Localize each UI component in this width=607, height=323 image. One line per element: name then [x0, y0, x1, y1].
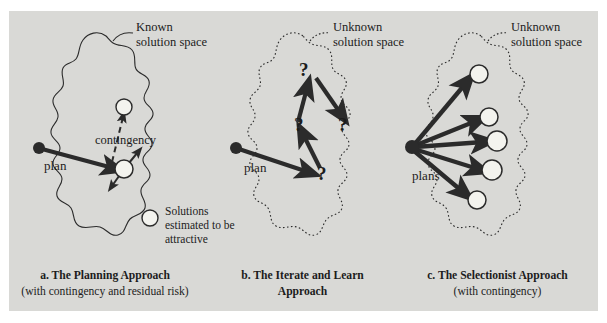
panel-a-space-label-leader — [113, 33, 133, 41]
panel-a-plan-label: plan — [44, 158, 66, 173]
panel-c-solution-circle-4 — [482, 160, 502, 180]
panel-a-legend-swatch — [142, 210, 158, 226]
panel-a-caption: a. The Planning Approach (with contingen… — [10, 268, 200, 299]
panel-a-legend-line2: estimated to be — [165, 219, 235, 232]
panel-b-space-label-line2: solution space — [333, 35, 404, 50]
panel-a-legend-line3: attractive — [165, 233, 208, 246]
panel-a-caption-subtitle: (with contingency and residual risk) — [10, 284, 200, 300]
panel-b-caption: b. The Iterate and Learn Approach — [215, 268, 390, 299]
panel-c-space-label-line1: Unknown — [511, 20, 560, 35]
panel-b-caption-subtitle: Approach — [215, 284, 390, 300]
panel-a-space-label-line2: solution space — [136, 35, 207, 50]
panel-b-question-mark-2: ? — [294, 115, 304, 134]
panel-a-caption-title: a. The Planning Approach — [10, 268, 200, 284]
panel-b-space-label-line1: Unknown — [333, 20, 382, 35]
panel-c-origin-dot — [405, 140, 419, 154]
panel-a-contingency-label: contingency — [95, 133, 156, 148]
panel-a-space-label-line1: Known — [136, 20, 173, 35]
panel-c-solution-circle-2 — [480, 108, 498, 126]
panel-c-caption-title: c. The Selectionist Approach — [400, 268, 595, 284]
panel-c-solution-circle-3 — [487, 131, 507, 151]
panel-b-origin-dot — [230, 142, 242, 154]
panel-b-question-mark-4: ? — [338, 115, 348, 134]
panel-c-caption: c. The Selectionist Approach (with conti… — [400, 268, 595, 299]
panel-c-space-label-line2: solution space — [511, 35, 582, 50]
panel-b-question-mark-3: ? — [299, 60, 309, 79]
panel-b-iterate-arrow-3 — [316, 78, 341, 114]
panel-b-plan-label: plan — [244, 160, 266, 175]
panel-b-graphics — [230, 33, 350, 236]
panel-a-legend-line1: Solutions — [165, 205, 208, 218]
panel-a-origin-dot — [33, 142, 45, 154]
figure-root: Known solution space plan contingency So… — [0, 0, 607, 323]
panel-c-plans-label: plans — [412, 168, 439, 183]
panel-b-space-label-leader — [310, 33, 330, 41]
panel-a-solution-circle-2 — [115, 160, 133, 178]
panel-c-solution-circle-5 — [468, 191, 486, 209]
panel-b-question-mark-1: ? — [317, 164, 327, 183]
panel-a-solution-circle-1 — [116, 99, 132, 115]
panel-b-caption-title: b. The Iterate and Learn — [215, 268, 390, 284]
panel-c-caption-subtitle: (with contingency) — [400, 284, 595, 300]
panel-c-space-label-leader — [488, 33, 508, 41]
panel-c-graphics — [405, 33, 528, 236]
panel-c-solution-circle-1 — [470, 65, 488, 83]
